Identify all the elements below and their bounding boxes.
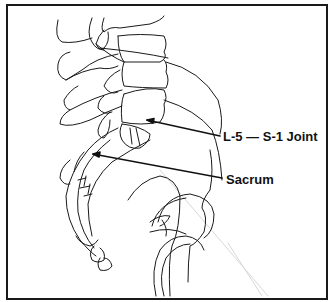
label-l5-s1-joint: L-5 — S-1 Joint <box>223 129 318 144</box>
ilium-outline <box>128 150 212 296</box>
label-sacrum: Sacrum <box>226 172 274 187</box>
lumbar-vertebra-upper <box>57 16 168 80</box>
spine-illustration <box>0 0 331 302</box>
l4-vertebra <box>64 60 222 134</box>
sacrum-outline <box>60 124 150 256</box>
arrow-sacrum <box>93 152 222 178</box>
